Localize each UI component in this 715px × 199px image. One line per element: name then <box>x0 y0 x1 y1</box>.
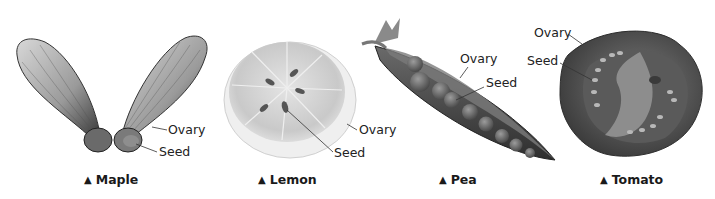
maple-caption: ▲Maple <box>84 174 138 187</box>
pea-caption-text: Pea <box>451 172 477 187</box>
pea-seed-label: Seed <box>486 77 517 90</box>
lemon-ovary-label: Ovary <box>359 124 396 137</box>
pea-pod-illustration <box>362 18 555 160</box>
tomato-caption: ▲Tomato <box>600 174 663 187</box>
tomato-seed-label: Seed <box>527 55 558 68</box>
pea-ovary-label: Ovary <box>460 53 497 66</box>
lemon-caption: ▲Lemon <box>258 174 317 187</box>
lemon-half-illustration <box>224 42 356 158</box>
lemon-caption-text: Lemon <box>270 172 317 187</box>
triangle-marker-icon: ▲ <box>600 174 608 185</box>
fruit-illustrations <box>0 0 715 199</box>
pea-caption: ▲Pea <box>439 174 477 187</box>
tomato-ovary-label: Ovary <box>534 27 571 40</box>
triangle-marker-icon: ▲ <box>439 174 447 185</box>
maple-caption-text: Maple <box>96 172 139 187</box>
triangle-marker-icon: ▲ <box>84 174 92 185</box>
tomato-caption-text: Tomato <box>612 172 663 187</box>
maple-ovary-label: Ovary <box>168 124 205 137</box>
lemon-seed-label: Seed <box>334 147 365 160</box>
tomato-half-illustration <box>560 31 702 156</box>
fruit-diagram: Ovary Seed Ovary Seed Ovary Seed Ovary S… <box>0 0 715 199</box>
triangle-marker-icon: ▲ <box>258 174 266 185</box>
maple-seed-label: Seed <box>159 146 190 159</box>
